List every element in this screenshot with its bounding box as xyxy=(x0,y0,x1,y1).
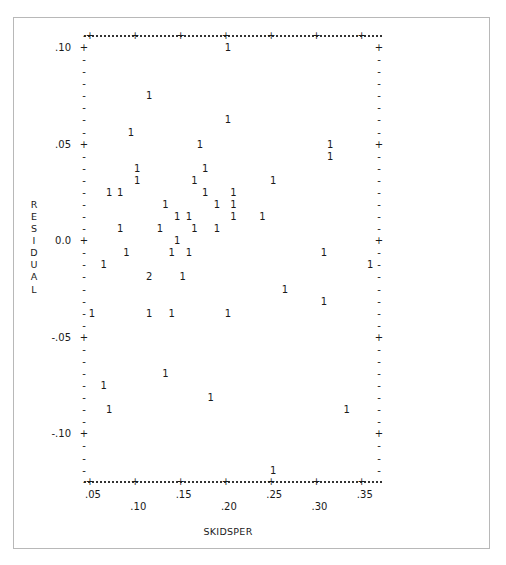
right-axis-minor-tick: - xyxy=(377,188,381,198)
right-axis-major-tick: + xyxy=(375,236,383,246)
bottom-border-tick: + xyxy=(358,477,366,487)
y-axis-minor-tick: - xyxy=(82,248,86,258)
data-point: 1 xyxy=(197,140,203,150)
bottom-border-line xyxy=(84,481,382,485)
data-point: 2 xyxy=(146,272,152,282)
right-axis-minor-tick: - xyxy=(377,212,381,222)
data-point: 1 xyxy=(101,381,107,391)
y-axis-minor-tick: - xyxy=(82,128,86,138)
y-axis-title-letter: A xyxy=(29,271,39,283)
y-axis-major-tick: + xyxy=(80,429,88,439)
y-axis-title-letter: E xyxy=(29,211,39,223)
y-axis-minor-tick: - xyxy=(82,345,86,355)
data-point: 1 xyxy=(327,152,333,162)
right-axis-minor-tick: - xyxy=(377,466,381,476)
data-point: 1 xyxy=(117,188,123,198)
y-axis-minor-tick: - xyxy=(82,55,86,65)
y-axis-minor-tick: - xyxy=(82,466,86,476)
y-tick-label: .10 xyxy=(55,43,71,53)
data-point: 1 xyxy=(225,43,231,53)
y-axis-minor-tick: - xyxy=(82,200,86,210)
x-tick-label: .25 xyxy=(266,490,282,500)
data-point: 1 xyxy=(169,248,175,258)
right-axis-minor-tick: - xyxy=(377,381,381,391)
top-border-tick: + xyxy=(176,31,184,41)
bottom-border-tick: + xyxy=(131,477,139,487)
y-axis-minor-tick: - xyxy=(82,309,86,319)
bottom-border-tick: + xyxy=(86,477,94,487)
data-point: 1 xyxy=(106,405,112,415)
top-border-tick: + xyxy=(86,31,94,41)
y-axis-minor-tick: - xyxy=(82,176,86,186)
data-point: 1 xyxy=(230,212,236,222)
data-point: 1 xyxy=(282,285,288,295)
y-axis-minor-tick: - xyxy=(82,417,86,427)
right-axis-minor-tick: - xyxy=(377,417,381,427)
y-axis-minor-tick: - xyxy=(82,91,86,101)
data-point: 1 xyxy=(327,140,333,150)
right-axis-minor-tick: - xyxy=(377,176,381,186)
data-point: 1 xyxy=(214,200,220,210)
right-axis-minor-tick: - xyxy=(377,345,381,355)
y-axis-minor-tick: - xyxy=(82,260,86,270)
right-axis-minor-tick: - xyxy=(377,357,381,367)
data-point: 1 xyxy=(225,309,231,319)
right-axis-minor-tick: - xyxy=(377,285,381,295)
right-axis-major-tick: + xyxy=(375,43,383,53)
right-axis-minor-tick: - xyxy=(377,369,381,379)
x-tick-label: .30 xyxy=(312,502,328,512)
data-point: 1 xyxy=(123,248,129,258)
y-axis-title-letter: D xyxy=(29,247,39,259)
data-point: 1 xyxy=(146,91,152,101)
right-axis-major-tick: + xyxy=(375,140,383,150)
right-axis-major-tick: + xyxy=(375,333,383,343)
data-point: 1 xyxy=(259,212,265,222)
y-axis-minor-tick: - xyxy=(82,188,86,198)
y-axis-minor-tick: - xyxy=(82,79,86,89)
y-axis-minor-tick: - xyxy=(82,285,86,295)
y-axis-minor-tick: - xyxy=(82,321,86,331)
bottom-border-tick: + xyxy=(312,477,320,487)
right-axis-minor-tick: - xyxy=(377,454,381,464)
data-point: 1 xyxy=(270,466,276,476)
top-border-tick: + xyxy=(312,31,320,41)
right-axis-minor-tick: - xyxy=(377,297,381,307)
bottom-border-tick: + xyxy=(267,477,275,487)
top-border-tick: + xyxy=(267,31,275,41)
y-axis-minor-tick: - xyxy=(82,115,86,125)
data-point: 1 xyxy=(230,200,236,210)
y-axis-major-tick: + xyxy=(80,333,88,343)
y-axis-minor-tick: - xyxy=(82,297,86,307)
right-axis-minor-tick: - xyxy=(377,200,381,210)
data-point: 1 xyxy=(117,224,123,234)
y-axis-title-letter: R xyxy=(29,199,39,211)
y-axis-minor-tick: - xyxy=(82,405,86,415)
right-axis-minor-tick: - xyxy=(377,67,381,77)
x-tick-label: .05 xyxy=(85,490,101,500)
right-axis-minor-tick: - xyxy=(377,91,381,101)
y-axis-minor-tick: - xyxy=(82,381,86,391)
right-axis-minor-tick: - xyxy=(377,55,381,65)
x-axis-title: SKIDSPER xyxy=(203,526,252,537)
right-axis-minor-tick: - xyxy=(377,224,381,234)
data-point: 1 xyxy=(146,309,152,319)
y-axis-minor-tick: - xyxy=(82,393,86,403)
y-axis-minor-tick: - xyxy=(82,67,86,77)
data-point: 1 xyxy=(89,309,95,319)
data-point: 1 xyxy=(321,248,327,258)
y-axis-minor-tick: - xyxy=(82,369,86,379)
right-axis-minor-tick: - xyxy=(377,79,381,89)
top-border-line xyxy=(84,35,382,39)
data-point: 1 xyxy=(101,260,107,270)
data-point: 1 xyxy=(270,176,276,186)
data-point: 1 xyxy=(367,260,373,270)
y-axis-major-tick: + xyxy=(80,236,88,246)
y-axis-major-tick: + xyxy=(80,43,88,53)
y-axis-title-letter: I xyxy=(29,235,39,247)
y-axis-minor-tick: - xyxy=(82,152,86,162)
data-point: 1 xyxy=(191,176,197,186)
right-axis-minor-tick: - xyxy=(377,103,381,113)
data-point: 1 xyxy=(191,224,197,234)
right-axis-minor-tick: - xyxy=(377,405,381,415)
right-axis-minor-tick: - xyxy=(377,115,381,125)
